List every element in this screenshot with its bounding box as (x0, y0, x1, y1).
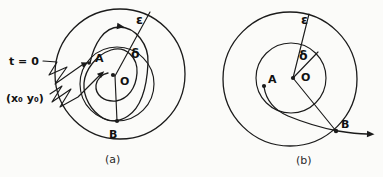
figure-stability-diagrams: ε δ A O B t = 0 (x₀ y₀) (a) (0, 0, 383, 177)
caption-a: (a) (105, 153, 120, 166)
point-B-label-b: B (341, 118, 349, 131)
diagram-canvas: ε δ A O B t = 0 (x₀ y₀) (a) (0, 0, 383, 177)
o-to-b-line-b (293, 78, 336, 131)
point-B-dot-b (334, 129, 338, 133)
point-O-dot-a (111, 73, 115, 77)
o-to-b-line-a (115, 76, 117, 121)
diagram-a: ε δ A O B t = 0 (x₀ y₀) (a) (6, 9, 185, 166)
epsilon-circle-b (223, 12, 357, 146)
t0-label: t = 0 (9, 55, 39, 68)
point-B-dot-a (115, 119, 119, 123)
epsilon-label-a: ε (136, 12, 143, 27)
trajectory-arrow-top-a (117, 23, 125, 30)
diagram-b: ε δ A O B (b) (223, 12, 375, 167)
epsilon-radius-line-a (115, 12, 150, 76)
epsilon-label-b: ε (301, 12, 308, 27)
point-O-dot-b (291, 76, 295, 80)
point-O-label-b: O (301, 71, 310, 84)
delta-label-a: δ (131, 46, 140, 61)
point-A-label-a: A (95, 52, 104, 65)
point-A-dot-a (87, 61, 90, 64)
point-O-label-a: O (120, 75, 129, 88)
point-A-dot-b (262, 84, 266, 88)
start-point-label: (x₀ y₀) (6, 92, 44, 105)
delta-label-b: δ (299, 48, 308, 63)
trajectory-arrow-b (367, 131, 375, 138)
caption-b: (b) (296, 154, 312, 167)
point-B-label-a: B (109, 128, 117, 141)
t0-leader-line (43, 61, 82, 84)
point-A-label-b: A (268, 73, 277, 86)
